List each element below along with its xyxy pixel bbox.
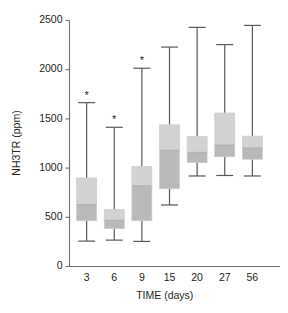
x-tick-label: 20 <box>191 271 203 283</box>
x-tick-label: 6 <box>111 271 117 283</box>
box-plot-item <box>187 27 207 176</box>
x-tick-label: 3 <box>84 271 90 283</box>
x-axis: 36915202756 <box>70 267 281 283</box>
y-tick-label: 2000 <box>39 62 63 74</box>
box-series: *** <box>77 25 263 241</box>
x-tick-label: 15 <box>164 271 176 283</box>
outlier-asterisk: * <box>140 54 145 66</box>
y-tick-label: 500 <box>45 210 63 222</box>
y-axis-title: NH3TR (ppm) <box>10 110 22 175</box>
x-axis-title: TIME (days) <box>136 289 193 301</box>
box-plot-item: * <box>132 54 152 241</box>
x-tick-label: 9 <box>139 271 145 283</box>
y-axis: 05001000150020002500 <box>39 13 69 271</box>
x-tick-label: 27 <box>219 271 231 283</box>
box-plot-item <box>215 45 235 176</box>
chart-canvas: 05001000150020002500 36915202756 *** NH3… <box>0 0 288 313</box>
y-tick-label: 1000 <box>39 161 63 173</box>
box-plot-item <box>242 25 262 176</box>
y-tick-label: 2500 <box>39 13 63 25</box>
outlier-asterisk: * <box>84 89 89 101</box>
y-tick-label: 0 <box>57 259 63 271</box>
y-tick-label: 1500 <box>39 112 63 124</box>
box-plot-item <box>160 47 180 205</box>
outlier-asterisk: * <box>112 113 117 125</box>
box-plot-item: * <box>104 113 124 240</box>
boxplot-chart: 05001000150020002500 36915202756 *** NH3… <box>0 0 288 313</box>
x-tick-label: 56 <box>247 271 259 283</box>
box-plot-item: * <box>77 89 97 241</box>
